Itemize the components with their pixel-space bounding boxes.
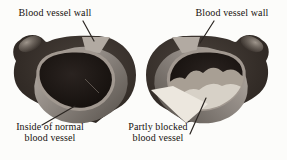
figure: Blood vessel wall Blood vessel wall Insi…: [0, 0, 287, 160]
label-inside-normal-line1: Inside of normal: [3, 121, 97, 132]
label-partly-blocked-vessel: Partly blocked blood vessel: [123, 121, 193, 143]
label-inside-normal-line2: blood vessel: [3, 132, 97, 143]
label-inside-normal-vessel: Inside of normal blood vessel: [3, 121, 97, 143]
label-blocked-vessel-wall: Blood vessel wall: [190, 7, 274, 18]
blocked-vessel: [146, 33, 269, 131]
label-partly-blocked-line2: blood vessel: [123, 132, 193, 143]
label-normal-vessel-wall: Blood vessel wall: [14, 7, 96, 18]
label-partly-blocked-line1: Partly blocked: [123, 121, 193, 132]
normal-vessel: [13, 33, 136, 131]
